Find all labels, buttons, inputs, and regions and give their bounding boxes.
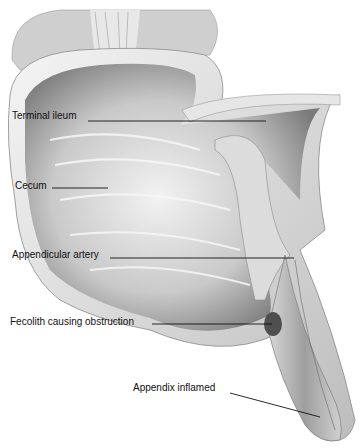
label-appendix-inflamed: Appendix inflamed — [133, 382, 215, 394]
label-fecolith: Fecolith causing obstruction — [10, 316, 134, 328]
colon-illustration — [0, 0, 362, 448]
label-cecum: Cecum — [15, 180, 47, 192]
label-terminal-ileum: Terminal ileum — [12, 110, 76, 122]
label-appendicular-artery: Appendicular artery — [12, 249, 99, 261]
